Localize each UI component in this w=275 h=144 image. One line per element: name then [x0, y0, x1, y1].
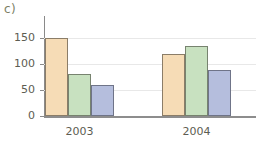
panel-label: c) [4, 2, 16, 16]
x-tick-label: 2004 [167, 126, 227, 138]
chart-container: c) 050100150 20032004 [0, 0, 275, 144]
bar-group [45, 16, 114, 116]
bar[interactable] [208, 70, 231, 116]
bar[interactable] [68, 74, 91, 116]
y-tick-label: 0 [0, 110, 35, 121]
bar[interactable] [91, 85, 114, 116]
bar[interactable] [185, 46, 208, 116]
bar-group [162, 16, 231, 116]
y-tick-label: 100 [0, 58, 35, 69]
y-tick-label: 50 [0, 84, 35, 95]
bar[interactable] [45, 38, 68, 116]
y-tick-label: 150 [0, 32, 35, 43]
x-axis-line [44, 116, 256, 118]
plot-area [44, 16, 256, 116]
bar[interactable] [162, 54, 185, 116]
x-tick-label: 2003 [50, 126, 110, 138]
y-tick-mark-0 [40, 116, 44, 117]
